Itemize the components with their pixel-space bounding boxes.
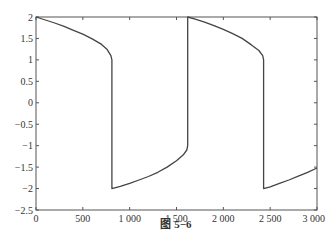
y-tick-label: 1	[28, 54, 33, 65]
x-axis: 05001 0001 5002 0002 5003 000	[34, 17, 326, 224]
y-tick-label: 2	[28, 12, 33, 23]
y-tick-label: −0.5	[15, 119, 33, 130]
x-tick-label: 0	[34, 213, 39, 224]
y-tick-label: −2.5	[15, 205, 33, 216]
y-axis: 21.510.50−0.5−1−1.5−2−2.5	[15, 12, 317, 216]
x-tick-label: 1 000	[118, 213, 141, 224]
y-tick-label: −2	[22, 183, 33, 194]
y-tick-label: 0.5	[21, 76, 34, 87]
y-tick-label: −1.5	[15, 162, 33, 173]
y-tick-label: 0	[28, 97, 33, 108]
plot-border	[36, 17, 317, 210]
data-series	[36, 17, 317, 189]
x-tick-label: 3 000	[303, 213, 326, 224]
figure-caption: 图 5−6	[160, 218, 192, 230]
chart-svg: 21.510.50−0.5−1−1.5−2−2.5 05001 0001 500…	[0, 0, 331, 250]
x-tick-label: 2 000	[212, 213, 235, 224]
chart: 21.510.50−0.5−1−1.5−2−2.5 05001 0001 500…	[0, 0, 331, 250]
plot-frame	[36, 17, 317, 210]
y-tick-label: 1.5	[21, 33, 34, 44]
x-tick-label: 2 500	[259, 213, 282, 224]
series-line	[36, 17, 317, 189]
y-tick-label: −1	[22, 140, 33, 151]
x-tick-label: 500	[75, 213, 90, 224]
